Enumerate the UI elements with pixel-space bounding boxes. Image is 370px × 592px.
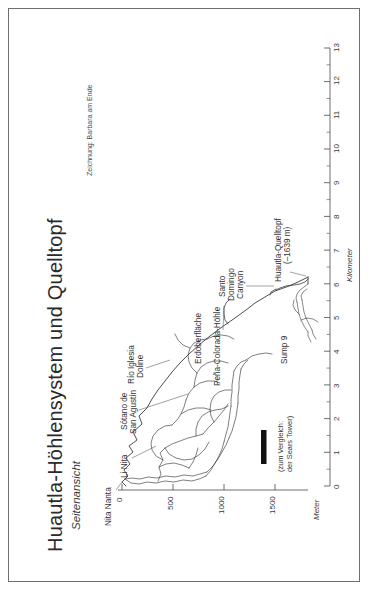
y-tick-500: 500 [167,497,176,510]
x-tick-4: 4 [333,350,342,354]
x-axis-title: Kilometer [346,248,355,282]
x-tick-0: 0 [333,485,342,489]
figure-frame: Huautla-Höhlensystem und Quelltopf Seite… [8,8,360,582]
rotated-figure-container: Huautla-Höhlensystem und Quelltopf Seite… [8,8,360,582]
label-erdoberflaeche: Erdoberfläche [194,313,203,364]
leader-sotano [139,394,188,410]
label-pena-colorada: Peña-Colorada-Höhle [213,307,222,386]
leader-rio-iglesia [146,360,170,368]
label-sotano-line1: Sótano de [120,393,129,430]
x-tick-5: 5 [333,316,342,320]
sears-tower-scale-bar [261,430,267,464]
x-tick-3: 3 [333,384,342,388]
surface-shelf-path [224,299,230,324]
label-santo-line2: Domingo [227,268,236,301]
label-rio-iglesia-line2: Doline [136,355,145,378]
x-tick-2: 2 [333,417,342,421]
figure-canvas: Huautla-Höhlensystem und Quelltopf Seite… [8,8,360,582]
label-santo-line1: Santo [218,276,227,297]
y-axis-ticks [122,484,275,490]
y-axis-title: Meter [313,500,322,520]
drawing-credit: Zeichnung: Barbara am Ende [86,85,94,176]
x-tick-13: 13 [333,43,342,52]
label-rio-iglesia-line1: Río Iglesia [127,345,136,384]
x-tick-6: 6 [333,283,342,287]
label-sotano-line2: San Agustín [129,390,138,434]
x-tick-10: 10 [333,144,342,153]
y-tick-1000: 1000 [218,496,227,514]
axes [118,48,330,490]
x-tick-7: 7 [333,249,342,253]
cave-profile-drawing [8,8,360,582]
label-quelltopf-line2: (–1639 m) [283,227,292,264]
sump9-path [246,353,272,360]
leader-li-nita [132,446,156,458]
label-li-nita: Li Nita [120,455,129,478]
label-santo-line3: Canyon [236,271,245,299]
leader-quelltopf [290,272,306,276]
x-tick-11: 11 [333,111,342,119]
label-nita-nanta: Nita Nanta [104,487,113,526]
x-axis-minor-ticks [327,65,331,469]
x-tick-9: 9 [333,181,342,185]
label-scalebar-line2: der Sears Tower) [286,416,294,472]
x-tick-12: 12 [333,76,342,85]
y-tick-0: 0 [116,498,125,502]
x-tick-1: 1 [333,451,342,455]
leader-nita-nanta [116,482,122,490]
y-tick-1500: 1500 [269,496,278,514]
pena-colorada-cave [293,284,318,342]
label-quelltopf-line1: Huautla-Quelltopf [274,218,283,282]
label-sump9: Sump 9 [280,336,289,364]
figure-page: Huautla-Höhlensystem und Quelltopf Seite… [0,0,370,592]
x-tick-8: 8 [333,215,342,219]
